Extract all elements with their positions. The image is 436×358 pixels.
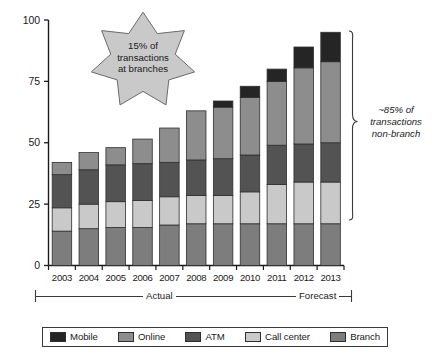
y-axis-tick-label: 100 (14, 15, 40, 25)
bar-segment-online (106, 148, 126, 165)
x-axis-tick-label: 2006 (129, 273, 156, 283)
legend-label: ATM (205, 332, 224, 342)
bar-segment-atm (160, 162, 180, 196)
x-axis-tick-label: 2004 (75, 273, 102, 283)
bar-segment-branch (52, 231, 72, 265)
bar-stack (133, 139, 153, 265)
bar-segment-call-center (240, 192, 260, 224)
period-label-forecast: Forecast (296, 291, 339, 301)
star-callout: 15% of transactions at branches (88, 12, 198, 110)
bar-segment-call-center (79, 204, 99, 229)
bar-segment-online (187, 111, 207, 160)
bar-segment-atm (133, 164, 153, 201)
bar-segment-call-center (213, 196, 233, 224)
bar-stack (213, 101, 233, 265)
chart-figure: 0255075100 20032004200520062007200820092… (0, 0, 436, 358)
legend-swatch-icon (118, 332, 134, 342)
bar-segment-mobile (240, 86, 260, 97)
bar-segment-online (79, 153, 99, 170)
x-axis-tick-label: 2013 (317, 273, 344, 283)
legend-item[interactable]: Mobile (50, 332, 98, 342)
bar-segment-call-center (160, 197, 180, 225)
bar-stack (267, 69, 287, 265)
brace-annotation-text: ~85% of transactions non-branch (358, 104, 434, 140)
legend-item[interactable]: Online (118, 332, 165, 342)
bar-segment-online (133, 139, 153, 164)
bar-segment-atm (52, 175, 72, 208)
bar-segment-call-center (106, 202, 126, 228)
brace-icon (349, 31, 358, 220)
legend-label: Online (138, 332, 165, 342)
bar-segment-branch (79, 229, 99, 266)
legend-label: Call center (265, 332, 310, 342)
y-axis-tick-label: 75 (14, 76, 40, 86)
bar-segment-atm (213, 159, 233, 196)
bar-segment-atm (294, 144, 314, 182)
bar-segment-branch (240, 224, 260, 266)
bar-segment-call-center (321, 182, 341, 224)
bar-stack (160, 128, 180, 265)
x-axis-tick-label: 2009 (210, 273, 237, 283)
plot-area: 0255075100 20032004200520062007200820092… (0, 0, 436, 358)
y-axis-tick-label: 25 (14, 199, 40, 209)
x-axis-tick-label: 2003 (48, 273, 75, 283)
x-axis-tick-label: 2010 (236, 273, 263, 283)
bar-segment-call-center (294, 182, 314, 224)
bar-segment-branch (187, 224, 207, 266)
bar-segment-atm (240, 155, 260, 192)
bar-segment-atm (79, 170, 99, 204)
bar-segment-online (160, 128, 180, 162)
legend-item[interactable]: Branch (330, 332, 380, 342)
bar-segment-mobile (213, 101, 233, 107)
x-axis-tick-label: 2008 (183, 273, 210, 283)
legend-swatch-icon (185, 332, 201, 342)
chart-canvas (0, 0, 436, 358)
bar-segment-mobile (267, 69, 287, 81)
bar-stack (106, 148, 126, 266)
bar-segment-atm (321, 143, 341, 182)
bar-segment-online (294, 68, 314, 144)
chart-legend: MobileOnlineATMCall centerBranch (42, 327, 388, 347)
bar-stack (294, 47, 314, 265)
legend-item[interactable]: Call center (245, 332, 310, 342)
bar-stack (52, 162, 72, 265)
bar-segment-mobile (321, 32, 341, 61)
y-axis-tick-label: 50 (14, 137, 40, 147)
brace-note-line-1: ~85% of (358, 104, 434, 116)
bar-segment-mobile (294, 47, 314, 68)
bar-segment-online (267, 81, 287, 145)
legend-swatch-icon (245, 332, 261, 342)
brace-note-line-2: transactions (358, 116, 434, 128)
bar-segment-atm (187, 160, 207, 196)
bar-segment-online (52, 162, 72, 174)
star-callout-line-3: at branches (88, 63, 198, 75)
bar-segment-branch (294, 224, 314, 266)
legend-label: Branch (350, 332, 380, 342)
legend-swatch-icon (50, 332, 66, 342)
bar-segment-call-center (52, 208, 72, 231)
legend-swatch-icon (330, 332, 346, 342)
bar-stack (79, 153, 99, 266)
legend-item[interactable]: ATM (185, 332, 224, 342)
bar-segment-online (240, 97, 260, 155)
bar-stack (321, 32, 341, 265)
star-callout-line-2: transactions (88, 52, 198, 64)
bar-segment-atm (106, 165, 126, 202)
bar-segment-branch (321, 224, 341, 266)
bar-segment-call-center (267, 184, 287, 223)
x-axis-tick-label: 2005 (102, 273, 129, 283)
brace-note-line-3: non-branch (358, 128, 434, 140)
star-callout-line-1: 15% of (88, 40, 198, 52)
bar-segment-call-center (187, 196, 207, 224)
bar-segment-branch (213, 224, 233, 266)
star-callout-text: 15% of transactions at branches (88, 40, 198, 75)
period-label-actual: Actual (143, 291, 176, 301)
bar-segment-branch (160, 225, 180, 266)
legend-label: Mobile (70, 332, 98, 342)
bar-segment-call-center (133, 200, 153, 227)
bar-segment-online (213, 107, 233, 159)
bar-stack (240, 86, 260, 265)
bar-segment-online (321, 62, 341, 143)
y-axis-tick-label: 0 (14, 260, 40, 270)
bar-segment-branch (106, 227, 126, 265)
